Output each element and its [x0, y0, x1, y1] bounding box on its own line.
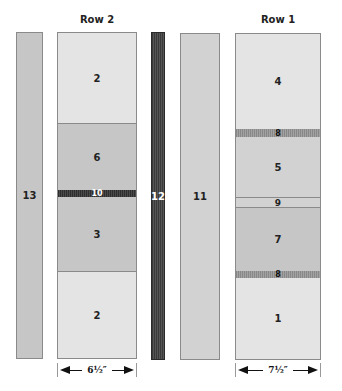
row-1-segment-5: 5: [236, 137, 320, 197]
dim-tick-left: [57, 363, 58, 377]
strip-12: 12: [151, 32, 165, 360]
row-2-segment-10: 10: [58, 190, 136, 197]
row-1-title: Row 1: [235, 14, 321, 25]
row-1-segment-4: 4: [236, 34, 320, 129]
segment-label: 5: [275, 162, 282, 173]
row-1-width-dimension: 7½″: [235, 363, 321, 377]
row-1-segment-8-bottom: 8: [236, 271, 320, 278]
row-2-segment-2-top: 2: [58, 33, 136, 123]
strip-12-label: 12: [151, 191, 165, 202]
row-2-segment-3: 3: [58, 197, 136, 271]
strip-13: 13: [16, 32, 43, 359]
row-2-title: Row 2: [57, 14, 137, 25]
segment-label: 2: [94, 73, 101, 84]
row-1-segment-9: 9: [236, 197, 320, 207]
segment-label: 4: [275, 76, 282, 87]
strip-11-label: 11: [193, 191, 207, 202]
segment-label: 7: [275, 234, 282, 245]
segment-label: 1: [275, 313, 282, 324]
arrow-left-icon: [60, 366, 70, 374]
dim-line: [70, 370, 82, 371]
segment-label: 3: [94, 229, 101, 240]
row-2-width-dimension: 6½″: [57, 363, 137, 377]
row-1-segment-8-top: 8: [236, 129, 320, 137]
row-1-segment-7: 7: [236, 207, 320, 271]
dim-tick-left: [235, 363, 236, 377]
arrow-left-icon: [238, 366, 248, 374]
segment-label: 6: [94, 152, 101, 163]
arrow-right-icon: [308, 366, 318, 374]
row-2-segment-6: 6: [58, 123, 136, 190]
dim-tick-right: [320, 363, 321, 377]
row-1-column: 4 8 5 9 7 8 1: [235, 33, 321, 360]
row-1-width-label: 7½″: [263, 365, 293, 375]
segment-label: 2: [94, 310, 101, 321]
dim-line: [293, 370, 308, 371]
strip-11: 11: [180, 33, 220, 360]
dim-line: [248, 370, 263, 371]
dim-tick-right: [136, 363, 137, 377]
row-2-segment-2-bottom: 2: [58, 271, 136, 358]
segment-label: 9: [275, 198, 281, 208]
strip-13-label: 13: [23, 190, 37, 201]
row-2-width-label: 6½″: [82, 365, 112, 375]
arrow-right-icon: [124, 366, 134, 374]
row-1-segment-1: 1: [236, 278, 320, 359]
row-2-column: 2 6 10 3 2: [57, 32, 137, 359]
dim-line: [112, 370, 124, 371]
